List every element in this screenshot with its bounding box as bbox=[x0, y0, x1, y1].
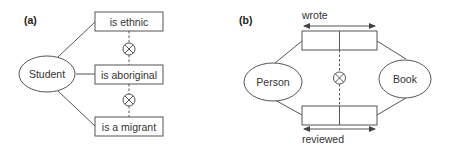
fact-type-wrote[interactable] bbox=[302, 31, 377, 50]
connector-line bbox=[275, 100, 302, 115]
role-box-is-aboriginal[interactable]: is aboriginal bbox=[95, 65, 163, 84]
role-label: is aboriginal bbox=[101, 69, 157, 81]
entity-person[interactable]: Person bbox=[244, 63, 302, 101]
panel-a: (a) Student is ethnic is aboriginal is a… bbox=[19, 12, 163, 136]
connector-line bbox=[58, 91, 95, 126]
panel-a-label: (a) bbox=[24, 14, 37, 26]
role-box-is-a-migrant[interactable]: is a migrant bbox=[95, 117, 163, 136]
exclusion-constraint-icon[interactable] bbox=[123, 43, 135, 55]
role-box-is-ethnic[interactable]: is ethnic bbox=[95, 12, 163, 31]
exclusion-constraint-icon[interactable] bbox=[334, 72, 346, 84]
exclusion-constraint-icon[interactable] bbox=[123, 94, 135, 106]
panel-b: (b) Person Book wrote bbox=[239, 9, 431, 145]
entity-label: Person bbox=[256, 76, 289, 88]
orm-diagram: (a) Student is ethnic is aboriginal is a… bbox=[0, 0, 459, 154]
fact-type-reviewed[interactable] bbox=[302, 106, 377, 125]
role-label: is a migrant bbox=[102, 121, 156, 133]
entity-label: Student bbox=[29, 68, 65, 80]
role-label: is ethnic bbox=[110, 16, 149, 28]
connector-line bbox=[58, 22, 95, 57]
entity-label: Book bbox=[393, 73, 418, 85]
entity-student[interactable]: Student bbox=[19, 56, 75, 92]
connector-line bbox=[377, 41, 406, 59]
fact-reading-reviewed: reviewed bbox=[302, 133, 344, 145]
connector-line bbox=[377, 98, 406, 115]
panel-b-label: (b) bbox=[239, 14, 252, 26]
connector-line bbox=[275, 41, 302, 63]
fact-reading-wrote: wrote bbox=[301, 9, 328, 21]
entity-book[interactable]: Book bbox=[379, 60, 431, 98]
